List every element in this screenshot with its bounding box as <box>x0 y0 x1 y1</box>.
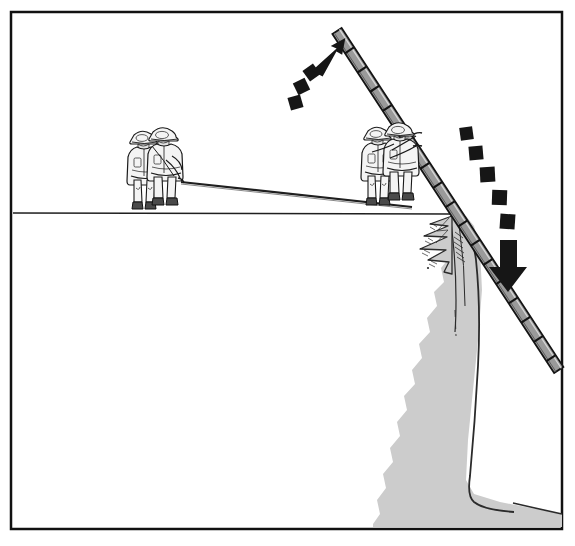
figure-belay-pair <box>127 128 184 209</box>
scene-canvas <box>0 0 575 546</box>
cliff <box>373 215 562 527</box>
cliff-silhouette <box>373 215 562 527</box>
illustration-root: Cliff edge ladder lowering with rope bel… <box>0 0 575 546</box>
raise-arrow-icon <box>287 36 345 111</box>
figure-ladder-pair <box>361 123 422 205</box>
ground-line <box>13 213 452 214</box>
